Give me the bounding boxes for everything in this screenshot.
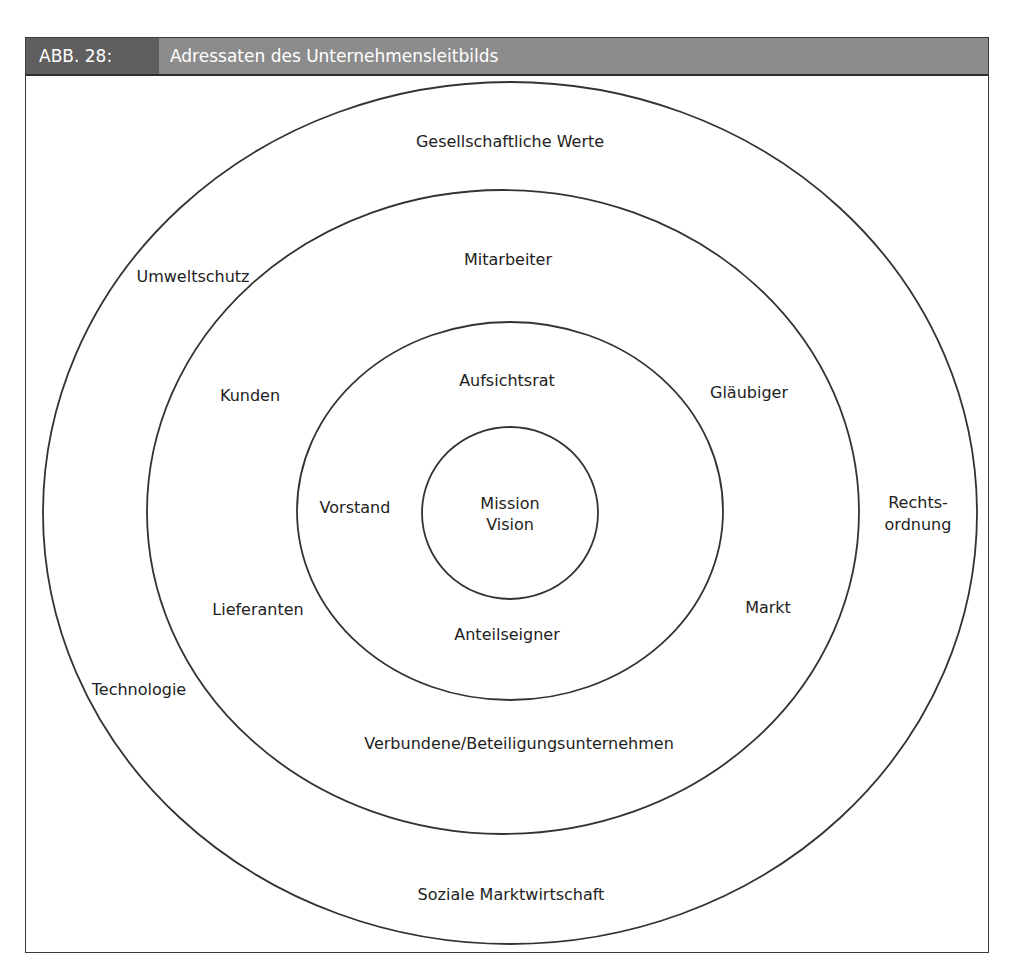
label-mission: Mission	[480, 494, 539, 513]
label-rechtsordnung-1: Rechts-	[888, 493, 948, 512]
label-umweltschutz: Umweltschutz	[136, 267, 249, 286]
label-markt: Markt	[745, 598, 791, 617]
label-soziale-marktwirtschaft: Soziale Marktwirtschaft	[418, 885, 605, 904]
ring-core	[422, 427, 598, 599]
label-vorstand: Vorstand	[320, 498, 391, 517]
label-mitarbeiter: Mitarbeiter	[464, 250, 552, 269]
label-technologie: Technologie	[91, 680, 186, 699]
label-verbundene-unternehmen: Verbundene/Beteiligungsunternehmen	[364, 734, 674, 753]
ring-outer	[43, 82, 977, 944]
label-anteilseigner: Anteilseigner	[454, 625, 560, 644]
label-vision: Vision	[486, 515, 534, 534]
label-lieferanten: Lieferanten	[212, 600, 303, 619]
label-aufsichtsrat: Aufsichtsrat	[459, 371, 555, 390]
concentric-diagram: Gesellschaftliche Werte Umweltschutz Rec…	[0, 0, 1018, 978]
label-gesellschaftliche-werte: Gesellschaftliche Werte	[416, 132, 604, 151]
label-glaeubiger: Gläubiger	[710, 383, 788, 402]
label-kunden: Kunden	[220, 386, 280, 405]
label-rechtsordnung-2: ordnung	[885, 515, 952, 534]
